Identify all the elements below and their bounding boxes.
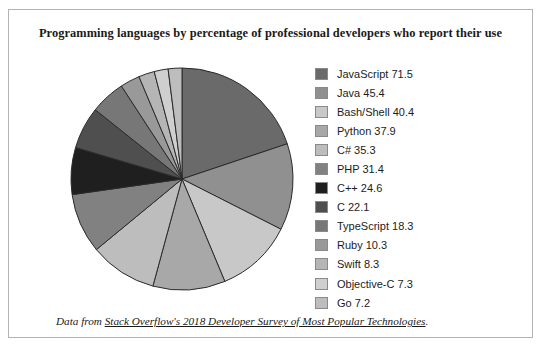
legend-item-label: Ruby 10.3 <box>337 239 387 251</box>
legend-item-label: PHP 31.4 <box>337 163 384 175</box>
legend-item: Swift 8.3 <box>315 255 485 274</box>
pie-chart <box>70 67 294 291</box>
legend-swatch-icon <box>315 87 328 99</box>
chart-frame: Programming languages by percentage of p… <box>8 9 533 338</box>
legend-swatch-icon <box>315 182 328 194</box>
pie-slice-group <box>71 68 293 290</box>
legend-item-label: JavaScript 71.5 <box>337 68 413 80</box>
pie-chart-svg <box>70 67 294 291</box>
legend-item: Python 37.9 <box>315 121 485 140</box>
legend-swatch-icon <box>315 220 328 232</box>
legend-swatch-icon <box>315 278 328 290</box>
legend-item-label: Go 7.2 <box>337 297 370 309</box>
legend-item: Objective-C 7.3 <box>315 274 485 293</box>
legend-swatch-icon <box>315 106 328 118</box>
footnote-suffix: . <box>425 315 428 327</box>
legend-item: TypeScript 18.3 <box>315 217 485 236</box>
legend-item: Ruby 10.3 <box>315 236 485 255</box>
legend-item: C 22.1 <box>315 198 485 217</box>
legend-item: PHP 31.4 <box>315 159 485 178</box>
legend-swatch-icon <box>315 201 328 213</box>
source-link[interactable]: Stack Overflow's 2018 Developer Survey o… <box>105 315 426 327</box>
legend-item-label: C# 35.3 <box>337 144 376 156</box>
legend-item-label: Python 37.9 <box>337 125 396 137</box>
legend-item-label: C++ 24.6 <box>337 182 382 194</box>
legend-item: Go 7.2 <box>315 293 485 312</box>
legend-swatch-icon <box>315 125 328 137</box>
chart-page: Programming languages by percentage of p… <box>0 0 545 347</box>
chart-footnote: Data from Stack Overflow's 2018 Develope… <box>56 315 428 327</box>
page-title: Programming languages by percentage of p… <box>9 26 532 41</box>
legend-swatch-icon <box>315 258 328 270</box>
legend-item-label: Java 45.4 <box>337 87 385 99</box>
legend-swatch-icon <box>315 239 328 251</box>
legend-swatch-icon <box>315 144 328 156</box>
legend-item: C++ 24.6 <box>315 179 485 198</box>
chart-legend: JavaScript 71.5Java 45.4Bash/Shell 40.4P… <box>315 64 485 312</box>
legend-item: Bash/Shell 40.4 <box>315 102 485 121</box>
legend-item-label: Objective-C 7.3 <box>337 278 413 290</box>
legend-item-label: Swift 8.3 <box>337 258 379 270</box>
legend-swatch-icon <box>315 163 328 175</box>
legend-item-label: TypeScript 18.3 <box>337 220 413 232</box>
legend-item: JavaScript 71.5 <box>315 64 485 83</box>
legend-swatch-icon <box>315 68 328 80</box>
legend-item: Java 45.4 <box>315 83 485 102</box>
footnote-prefix: Data from <box>56 315 105 327</box>
legend-swatch-icon <box>315 297 328 309</box>
legend-item: C# 35.3 <box>315 140 485 159</box>
legend-item-label: Bash/Shell 40.4 <box>337 106 414 118</box>
legend-item-label: C 22.1 <box>337 201 369 213</box>
